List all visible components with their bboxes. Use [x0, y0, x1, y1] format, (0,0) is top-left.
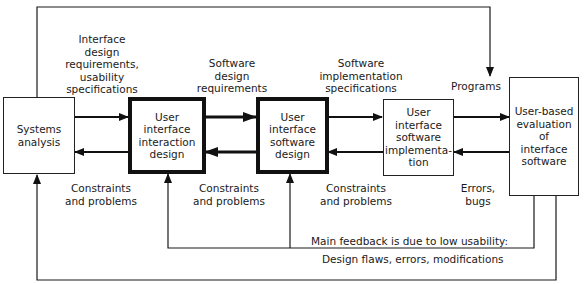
constraints-label-2: Constraints and problems	[188, 182, 270, 207]
errors-bugs-label: Errors, bugs	[455, 182, 501, 207]
constraints-label-3: Constraints and problems	[315, 182, 397, 207]
evaluation-label: User-based evaluation of interface softw…	[515, 105, 574, 168]
software-design-box: User interface software design	[256, 97, 329, 174]
design-flaws-label: Design flaws, errors, modifications	[322, 253, 522, 266]
software-design-requirements-label: Software design requirements	[196, 57, 268, 95]
software-design-label: User interface software design	[269, 111, 316, 161]
systems-analysis-box: Systems analysis	[3, 97, 75, 174]
constraints-label-1: Constraints and problems	[60, 182, 142, 207]
interface-requirements-label: Interface design requirements, usability…	[62, 33, 142, 96]
interaction-design-box: User interface interaction design	[128, 97, 206, 174]
evaluation-box: User-based evaluation of interface softw…	[509, 77, 579, 196]
interaction-design-label: User interface interaction design	[139, 111, 196, 161]
software-implementation-box: User interface software implementa- tion	[383, 99, 454, 176]
systems-analysis-label: Systems analysis	[17, 123, 62, 148]
software-implementation-label: User interface software implementa- tion	[385, 106, 452, 169]
programs-label: Programs	[448, 80, 504, 93]
main-feedback-label: Main feedback is due to low usability:	[311, 235, 541, 248]
software-implementation-specs-label: Software implementation specifications	[313, 57, 409, 95]
